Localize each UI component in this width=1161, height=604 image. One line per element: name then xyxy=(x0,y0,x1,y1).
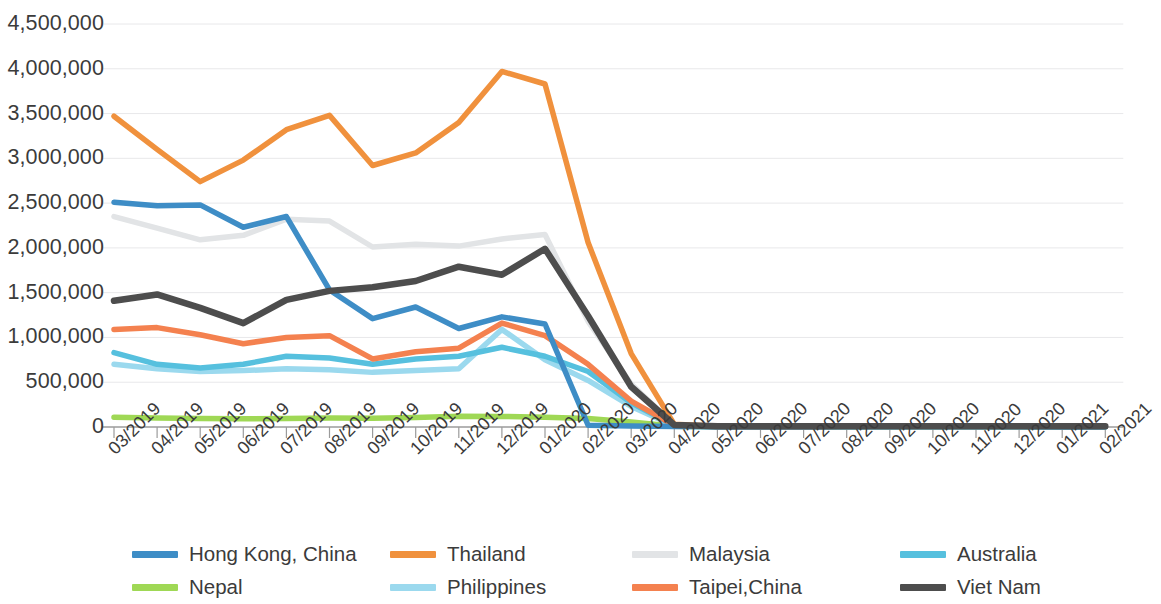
legend-item-label: Viet Nam xyxy=(957,577,1041,598)
legend-item-label: Philippines xyxy=(447,577,546,598)
legend-item[interactable]: Hong Kong, China xyxy=(132,538,390,571)
legend-item-label: Malaysia xyxy=(689,544,770,565)
chart-legend: Hong Kong, ChinaThailandMalaysiaAustrali… xyxy=(132,538,1152,604)
legend-item-label: Taipei,China xyxy=(689,577,802,598)
legend-color-swatch xyxy=(632,584,678,591)
legend-item-label: Hong Kong, China xyxy=(189,544,357,565)
legend-item[interactable]: Malaysia xyxy=(632,538,900,571)
legend-color-swatch xyxy=(900,551,946,558)
legend-item[interactable]: Philippines xyxy=(390,571,632,604)
legend-item-label: Australia xyxy=(957,544,1037,565)
legend-item-label: Nepal xyxy=(189,577,243,598)
legend-item[interactable]: Nepal xyxy=(132,571,390,604)
legend-item[interactable]: Taipei,China xyxy=(632,571,900,604)
legend-color-swatch xyxy=(900,584,946,591)
legend-color-swatch xyxy=(390,584,436,591)
line-chart: 4,500,0004,000,0003,500,0003,000,0002,50… xyxy=(0,0,1161,604)
legend-color-swatch xyxy=(132,584,178,591)
legend-color-swatch xyxy=(632,551,678,558)
legend-item[interactable]: Thailand xyxy=(390,538,632,571)
legend-color-swatch xyxy=(132,551,178,558)
legend-item[interactable]: Viet Nam xyxy=(900,571,1150,604)
legend-item[interactable]: Australia xyxy=(900,538,1150,571)
x-axis-labels: 03/201904/201905/201906/201907/201908/20… xyxy=(0,0,1161,530)
legend-color-swatch xyxy=(390,551,436,558)
legend-item-label: Thailand xyxy=(447,544,526,565)
